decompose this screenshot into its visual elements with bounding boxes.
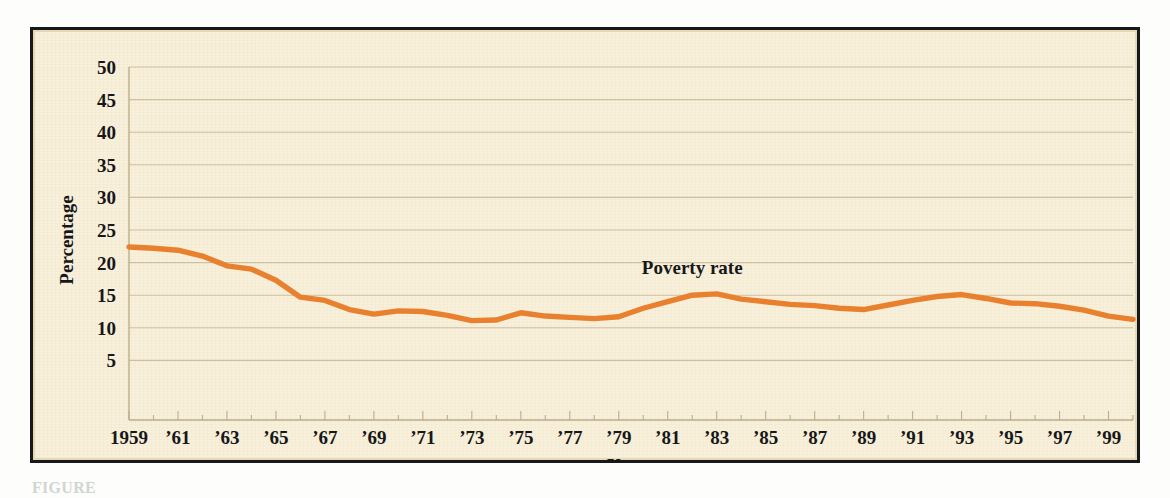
x-tick-label-1991: ’91 — [900, 427, 925, 448]
y-tick-label-10: 10 — [97, 318, 116, 339]
x-tick-label-1985: ’85 — [753, 427, 778, 448]
x-tick-label-1975: ’75 — [508, 427, 533, 448]
x-tick-label-1965: ’65 — [263, 427, 288, 448]
x-tick-label-1997: ’97 — [1047, 427, 1073, 448]
series-annotation-poverty-rate: Poverty rate — [642, 257, 743, 278]
y-tick-label-35: 35 — [97, 155, 116, 176]
x-tick-label-1979: ’79 — [606, 427, 631, 448]
poverty-rate-line-chart: 5101520253035404550 1959’61’63’65’67’69’… — [35, 32, 1139, 462]
x-tick-label-1967: ’67 — [312, 427, 338, 448]
x-tick-label-1973: ’73 — [459, 427, 484, 448]
y-tick-label-50: 50 — [97, 57, 116, 78]
x-axis-title: Year — [607, 455, 646, 462]
y-tick-label-20: 20 — [97, 253, 116, 274]
x-axis-tick-labels: 1959’61’63’65’67’69’71’73’75’77’79’81’83… — [110, 427, 1121, 448]
figure-frame: 5101520253035404550 1959’61’63’65’67’69’… — [30, 27, 1140, 463]
figure-inner-border: 5101520253035404550 1959’61’63’65’67’69’… — [33, 30, 1137, 460]
x-tick-label-1977: ’77 — [557, 427, 583, 448]
y-tick-label-40: 40 — [97, 122, 116, 143]
x-tick-label-1995: ’95 — [998, 427, 1023, 448]
x-tick-label-1969: ’69 — [361, 427, 386, 448]
y-tick-label-5: 5 — [107, 350, 117, 371]
axis-lines — [129, 67, 1133, 420]
y-tick-label-30: 30 — [97, 187, 116, 208]
figure-caption: FIGURE — [32, 479, 1132, 498]
gridlines — [129, 67, 1133, 360]
x-tick-label-1959: 1959 — [110, 427, 148, 448]
x-tick-label-1981: ’81 — [655, 427, 680, 448]
figure-container: 5101520253035404550 1959’61’63’65’67’69’… — [0, 0, 1170, 498]
y-axis-title: Percentage — [56, 195, 77, 284]
y-axis-tick-labels: 5101520253035404550 — [97, 57, 116, 371]
series-line-0 — [129, 247, 1133, 321]
x-tick-label-1989: ’89 — [851, 427, 876, 448]
y-tick-label-45: 45 — [97, 90, 116, 111]
x-axis-ticks — [129, 411, 1133, 420]
x-tick-label-1987: ’87 — [802, 427, 828, 448]
x-tick-label-1983: ’83 — [704, 427, 729, 448]
x-tick-label-1961: ’61 — [165, 427, 190, 448]
x-tick-label-1999: ’99 — [1096, 427, 1121, 448]
series-poverty-rate — [129, 247, 1133, 321]
x-tick-label-1971: ’71 — [410, 427, 435, 448]
y-tick-label-15: 15 — [97, 285, 116, 306]
y-tick-label-25: 25 — [97, 220, 116, 241]
x-tick-label-1993: ’93 — [949, 427, 974, 448]
x-tick-label-1963: ’63 — [214, 427, 239, 448]
